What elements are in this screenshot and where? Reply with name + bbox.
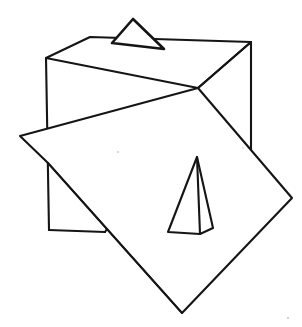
paper-speck — [287, 317, 289, 319]
paper-speck — [242, 147, 244, 149]
figure-svg — [0, 0, 302, 327]
paper-speck — [117, 151, 119, 153]
drawing-canvas — [0, 0, 302, 327]
